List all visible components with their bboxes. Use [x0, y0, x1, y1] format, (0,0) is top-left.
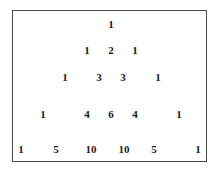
triangle-cell: 1 — [108, 17, 114, 31]
triangle-row: 1 — [13, 17, 206, 31]
triangle-row: 121 — [13, 43, 206, 57]
triangle-cell: 1 — [195, 142, 201, 156]
triangle-border-box: 112113311464115101051 — [12, 10, 207, 162]
triangle-cell: 4 — [132, 107, 138, 121]
triangle-cell: 4 — [84, 107, 90, 121]
triangle-row: 1331 — [13, 70, 206, 84]
triangle-cell: 1 — [62, 70, 68, 84]
triangle-cell: 10 — [119, 142, 130, 156]
triangle-cell: 1 — [84, 43, 90, 57]
triangle-row: 14641 — [13, 107, 206, 121]
triangle-cell: 1 — [40, 107, 46, 121]
triangle-cell: 10 — [86, 142, 97, 156]
triangle-cell: 3 — [96, 70, 102, 84]
pascals-triangle-figure: 112113311464115101051 — [0, 0, 220, 171]
triangle-cell: 1 — [155, 70, 161, 84]
triangle-row: 15101051 — [13, 142, 206, 156]
triangle-cell: 3 — [120, 70, 126, 84]
triangle-cell: 2 — [108, 43, 114, 57]
triangle-cell: 1 — [18, 142, 24, 156]
triangle-cell: 1 — [176, 107, 182, 121]
triangle-cell: 5 — [151, 142, 157, 156]
triangle-cell: 5 — [53, 142, 59, 156]
triangle-cell: 1 — [132, 43, 138, 57]
triangle-cell: 6 — [108, 107, 114, 121]
